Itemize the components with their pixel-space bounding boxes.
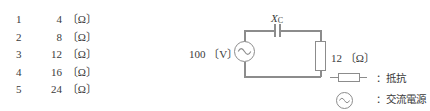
legend: ：抵抗 ：交流電源	[330, 68, 430, 110]
choice-value: 4	[36, 13, 62, 25]
list-item[interactable]: 4 16 〔Ω〕	[16, 63, 136, 81]
choice-unit: 〔Ω〕	[67, 28, 96, 44]
resistor-symbol	[315, 41, 326, 71]
choice-number: 1	[16, 13, 36, 25]
answer-choice-list: 1 4 〔Ω〕 2 8 〔Ω〕 3 12 〔Ω〕 4 16 〔Ω〕 5 24 〔…	[16, 10, 136, 98]
wire-top-right	[280, 30, 321, 32]
choice-value: 16	[36, 66, 62, 78]
list-item[interactable]: 1 4 〔Ω〕	[16, 10, 136, 28]
choice-unit: 〔Ω〕	[67, 63, 96, 79]
capacitor-reactance-subscript: C	[278, 16, 283, 25]
list-item[interactable]: 3 12 〔Ω〕	[16, 45, 136, 63]
wire-right-lower	[320, 71, 322, 77]
legend-label-ac-source: ：交流電源	[376, 91, 426, 106]
choice-number: 5	[16, 83, 36, 95]
capacitor-reactance-label: XC	[271, 12, 283, 25]
choice-value: 8	[36, 31, 62, 43]
legend-item-ac-source: ：交流電源	[330, 89, 430, 110]
choice-unit: 〔Ω〕	[67, 80, 96, 96]
choice-number: 2	[16, 31, 36, 43]
wire-left-lower	[244, 62, 246, 76]
wire-bottom	[244, 76, 321, 78]
choice-value: 12	[36, 48, 62, 60]
choice-number: 4	[16, 66, 36, 78]
list-item[interactable]: 2 8 〔Ω〕	[16, 28, 136, 46]
list-item[interactable]: 5 24 〔Ω〕	[16, 80, 136, 98]
question-figure: 1 4 〔Ω〕 2 8 〔Ω〕 3 12 〔Ω〕 4 16 〔Ω〕 5 24 〔…	[0, 0, 430, 111]
ac-source-icon	[330, 91, 372, 108]
legend-item-resistor: ：抵抗	[330, 68, 430, 89]
choice-unit: 〔Ω〕	[67, 10, 96, 26]
capacitor-reactance-symbol: X	[271, 12, 278, 24]
source-voltage-label: 100 〔V〕	[189, 45, 238, 61]
capacitor-plate-left	[274, 24, 276, 37]
choice-number: 3	[16, 48, 36, 60]
wire-top-left	[244, 30, 274, 32]
choice-value: 24	[36, 83, 62, 95]
resistor-value-label: 12 〔Ω〕	[331, 49, 375, 65]
resistor-icon	[330, 70, 372, 87]
choice-unit: 〔Ω〕	[67, 45, 96, 61]
legend-label-resistor: ：抵抗	[376, 70, 406, 85]
